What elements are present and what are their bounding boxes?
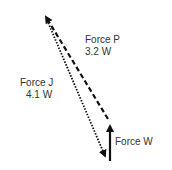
force-w-label: Force W [115,136,153,148]
force-p-value: 3.2 W [85,46,111,58]
force-p-label: Force P [85,34,120,46]
force-j-value: 4.1 W [26,89,52,101]
force-p-vector [46,17,108,119]
force-diagram: Force P 3.2 W Force J 4.1 W Force W [0,0,172,170]
force-j-label: Force J [20,77,53,89]
